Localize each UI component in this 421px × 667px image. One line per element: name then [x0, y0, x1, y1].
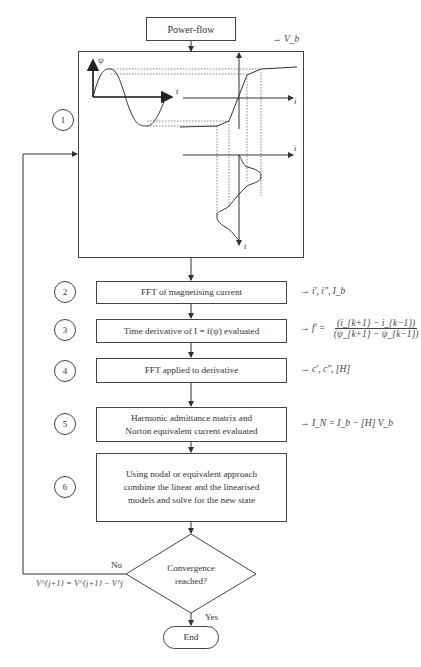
step4-annotation: → c′, c″, [H] [300, 364, 350, 374]
step1-box [78, 51, 304, 258]
step-number-2: 2 [54, 281, 76, 303]
current-axis-label-bottom: i [294, 143, 297, 153]
feedback-formula: V^{j+1} = V^{j+1} − V^j [36, 578, 123, 588]
derivative-fraction: (i_{k+1} − i_{k−1}) (ψ_{k+1} − ψ_{k−1}) [332, 318, 421, 339]
step4-label: FFT applied to derivative [145, 364, 238, 377]
step2-label: FFT of magnetising current [141, 286, 242, 299]
decision-label: Convergence reached? [151, 562, 231, 588]
step3-annotation: → f′ = (i_{k+1} − i_{k−1}) (ψ_{k+1} − ψ_… [300, 318, 421, 339]
power-flow-label: Power-flow [167, 23, 214, 36]
time-axis-label-top: t [176, 86, 179, 96]
step-number-1: 1 [52, 109, 74, 131]
power-flow-box: Power-flow [146, 17, 236, 41]
step-number-4: 4 [54, 360, 76, 382]
step2-annotation: → i′, i″, I_b [300, 286, 345, 296]
end-terminator: End [163, 626, 219, 649]
step1-annotation: → V_b [272, 34, 299, 44]
step3-box: Time derivative of I = f(ψ) evaluated [96, 319, 287, 343]
step3-label: Time derivative of I = f(ψ) evaluated [124, 325, 260, 338]
step6-box: Using nodal or equivalent approach combi… [96, 453, 287, 522]
step5-box: Harmonic admittance matrix and Norton eq… [96, 407, 287, 442]
step-number-5: 5 [54, 413, 76, 435]
time-axis-label-bottom: t [244, 241, 247, 251]
no-label: No [111, 560, 122, 570]
step-number-6: 6 [54, 476, 76, 498]
current-axis-label-top: i [294, 96, 297, 106]
step2-box: FFT of magnetising current [96, 281, 287, 304]
yes-label: Yes [205, 612, 218, 622]
step-number-3: 3 [54, 319, 76, 341]
step5-annotation: → I_N = I_b − [H] V_b [300, 418, 393, 428]
step4-box: FFT applied to derivative [96, 358, 287, 383]
flux-axis-label: ψ [98, 55, 104, 65]
end-label: End [184, 631, 199, 644]
